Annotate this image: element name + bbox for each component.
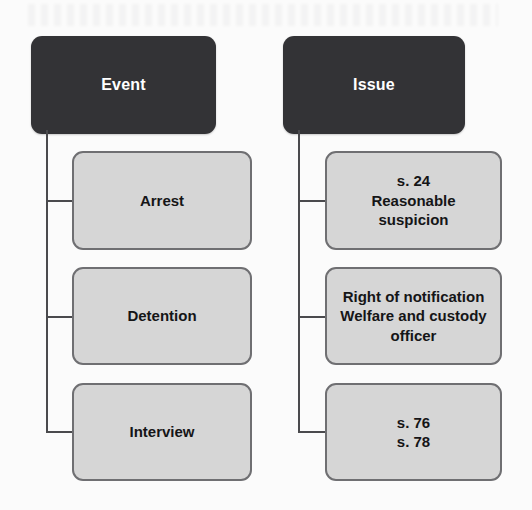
node-box-detention[interactable]: Detention xyxy=(72,267,252,365)
node-box-s76-s78[interactable]: s. 76 s. 78 xyxy=(325,383,502,481)
connector-branch-welfare xyxy=(298,316,326,318)
connector-branch-arrest xyxy=(46,200,73,202)
column-issue: Issue s. 24 Reasonable suspicion Right o… xyxy=(252,0,532,510)
node-box-arrest[interactable]: Arrest xyxy=(72,151,252,250)
connector-branch-interview xyxy=(46,431,73,433)
diagram-canvas: Event Arrest Detention Interview Issue s… xyxy=(0,0,532,510)
connector-branch-s24 xyxy=(298,200,326,202)
node-label-s76-s78: s. 76 s. 78 xyxy=(389,413,438,452)
connector-trunk-issue xyxy=(298,130,300,433)
header-box-issue[interactable]: Issue xyxy=(283,36,465,134)
node-label-right-of-notification: Right of notification Welfare and custod… xyxy=(332,287,494,346)
node-label-s24-reasonable-suspicion: s. 24 Reasonable suspicion xyxy=(363,171,463,230)
connector-branch-s76-s78 xyxy=(298,431,326,433)
header-box-event[interactable]: Event xyxy=(31,36,216,134)
node-label-detention: Detention xyxy=(119,306,204,326)
header-label-issue: Issue xyxy=(353,76,395,94)
connector-branch-detention xyxy=(46,316,73,318)
column-event: Event Arrest Detention Interview xyxy=(0,0,266,510)
node-box-s24-reasonable-suspicion[interactable]: s. 24 Reasonable suspicion xyxy=(325,151,502,250)
node-box-interview[interactable]: Interview xyxy=(72,383,252,481)
connector-trunk-event xyxy=(46,130,48,433)
node-label-interview: Interview xyxy=(121,422,202,442)
header-label-event: Event xyxy=(101,76,146,94)
node-label-arrest: Arrest xyxy=(132,191,192,211)
node-box-right-of-notification[interactable]: Right of notification Welfare and custod… xyxy=(325,267,502,365)
